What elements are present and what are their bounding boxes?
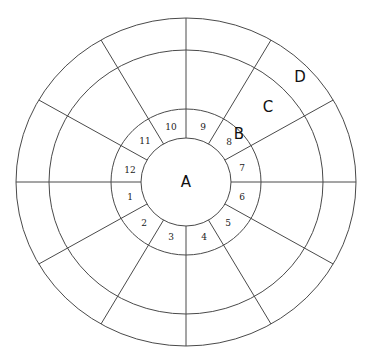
segment-label-7: 7 bbox=[239, 163, 245, 173]
segment-label-4: 4 bbox=[201, 232, 207, 242]
spoke-330 bbox=[225, 204, 333, 264]
segment-label-5: 5 bbox=[225, 218, 231, 228]
spoke-150 bbox=[39, 100, 147, 160]
segment-label-9: 9 bbox=[200, 122, 206, 132]
segment-label-1: 1 bbox=[127, 192, 133, 202]
spoke-300 bbox=[209, 220, 272, 324]
zone-label-a: A bbox=[181, 173, 192, 191]
segment-label-6: 6 bbox=[239, 192, 245, 202]
segment-label-3: 3 bbox=[168, 232, 174, 242]
zone-label-c: C bbox=[263, 98, 273, 116]
segment-label-8: 8 bbox=[226, 137, 232, 147]
spoke-120 bbox=[101, 40, 164, 144]
segment-label-11: 11 bbox=[139, 136, 150, 146]
zone-label-b: B bbox=[234, 125, 244, 143]
segment-label-12: 12 bbox=[124, 165, 135, 175]
concentric-zone-diagram: 1 2 3 4 5 6 7 8 9 10 11 12 A B C D bbox=[0, 0, 369, 359]
segment-label-2: 2 bbox=[141, 218, 147, 228]
zone-label-d: D bbox=[294, 68, 306, 86]
segment-label-10: 10 bbox=[165, 122, 177, 132]
spoke-240 bbox=[101, 220, 164, 324]
spoke-210 bbox=[39, 204, 147, 264]
